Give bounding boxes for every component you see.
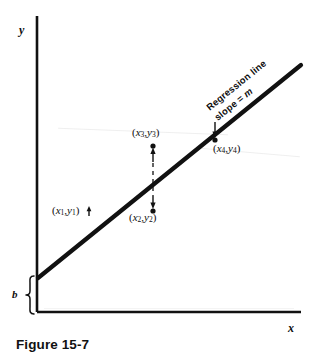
- figure-caption: Figure 15-7: [16, 337, 89, 352]
- point-4-marker: [212, 122, 217, 143]
- point-label-2: (x2,y2): [129, 212, 156, 224]
- point-label-4: (x4,y4): [213, 143, 240, 155]
- point-label-3: (x3,y3): [132, 127, 159, 139]
- points-2-3-connector: [150, 143, 155, 213]
- x-axis-label: x: [288, 322, 294, 334]
- figure-canvas: [0, 0, 315, 360]
- point-1-marker: [87, 206, 92, 216]
- intercept-brace: [26, 276, 34, 314]
- figure-regression-line: y x b Regression line slope = m (x1,y1) …: [0, 0, 315, 360]
- point-label-1: (x1,y1): [52, 205, 79, 217]
- regression-line: [38, 65, 301, 278]
- intercept-label: b: [12, 289, 18, 300]
- y-axis-label: y: [19, 24, 24, 36]
